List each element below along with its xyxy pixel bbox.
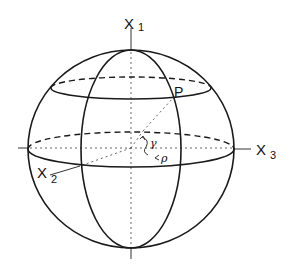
gamma-arrow bbox=[140, 136, 145, 140]
rho-arrow bbox=[155, 155, 159, 160]
radius-center-link bbox=[131, 131, 143, 148]
x1-subscript: 1 bbox=[138, 21, 144, 33]
x2-label: X bbox=[37, 164, 47, 181]
gamma-label: γ bbox=[150, 137, 157, 150]
sphere-diagram: X 1 X 3 X 2 P γ ρ bbox=[0, 0, 296, 268]
x3-subscript: 3 bbox=[270, 149, 276, 161]
point-p-label: P bbox=[174, 84, 183, 100]
x1-label: X bbox=[124, 15, 134, 32]
equator-back bbox=[28, 132, 234, 149]
x3-label: X bbox=[256, 141, 266, 158]
x2-axis-inner bbox=[80, 148, 131, 166]
rho-label: ρ bbox=[160, 152, 168, 165]
radius-to-p bbox=[143, 98, 173, 131]
x2-subscript: 2 bbox=[51, 173, 57, 185]
diagram-svg: X 1 X 3 X 2 P γ ρ bbox=[0, 0, 296, 268]
